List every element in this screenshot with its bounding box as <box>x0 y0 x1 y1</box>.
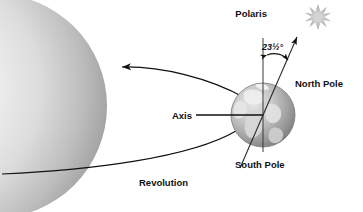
polaris-label: Polaris <box>235 8 267 19</box>
north-pole-label: North Pole <box>295 78 343 89</box>
tilt-angle-arrow <box>267 54 288 60</box>
earth-tilt-diagram: Polaris 23½° North Pole Axis South Pole … <box>0 0 363 212</box>
tilt-angle-label: 23½° <box>261 42 284 52</box>
revolution-label: Revolution <box>139 177 188 188</box>
sun-sphere-icon <box>0 0 107 212</box>
axis-label: Axis <box>172 110 192 121</box>
orbit-arc-upper <box>122 67 245 98</box>
star-burst-icon <box>305 4 331 30</box>
diagram-canvas: Polaris 23½° North Pole Axis South Pole … <box>0 0 363 212</box>
south-pole-label: South Pole <box>235 159 285 170</box>
